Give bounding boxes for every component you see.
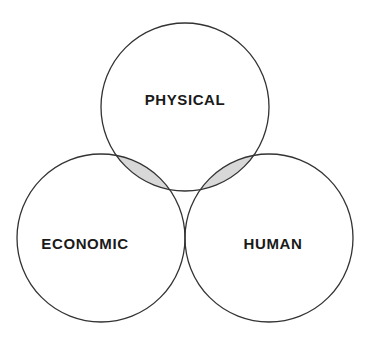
label-physical: PHYSICAL (145, 91, 226, 108)
label-economic: ECONOMIC (41, 235, 128, 252)
label-human: HUMAN (244, 235, 303, 252)
venn-diagram-canvas: PHYSICAL ECONOMIC HUMAN (0, 0, 369, 360)
venn-diagram-figure: PHYSICAL ECONOMIC HUMAN (0, 0, 369, 360)
